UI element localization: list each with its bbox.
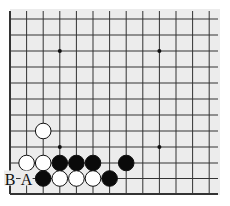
white-stone: [35, 123, 51, 139]
white-stone: [52, 171, 68, 187]
go-board: BA: [0, 0, 230, 206]
point-label-a: A: [21, 171, 33, 188]
black-stone: [118, 155, 134, 171]
star-point: [157, 49, 161, 53]
black-stone: [35, 171, 51, 187]
white-stone: [19, 155, 35, 171]
white-stone: [69, 171, 85, 187]
black-stone: [52, 155, 68, 171]
star-point: [58, 145, 62, 149]
star-point: [157, 145, 161, 149]
black-stone: [85, 155, 101, 171]
black-stone: [69, 155, 85, 171]
point-label-b: B: [5, 171, 16, 188]
white-stone: [85, 171, 101, 187]
white-stone: [35, 155, 51, 171]
black-stone: [102, 171, 118, 187]
star-point: [58, 49, 62, 53]
